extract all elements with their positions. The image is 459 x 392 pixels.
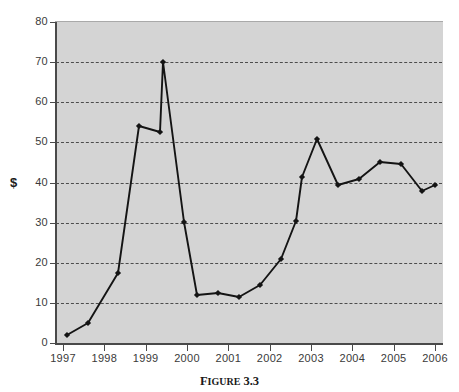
x-tick-label-2003: 2003 (291, 352, 331, 364)
gridline-20 (56, 263, 442, 264)
y-tick-label-20: 20 (22, 256, 48, 268)
caption-word-first-letter: F (200, 374, 208, 388)
y-tick-label-80: 80 (22, 15, 48, 27)
figure-3-3: · · · 01020304050607080 $ 19971998199920… (0, 0, 459, 392)
gridline-40 (56, 183, 442, 184)
x-tick-2000 (187, 345, 188, 351)
gridline-60 (56, 102, 442, 103)
caption-word-rest: IGURE (208, 376, 241, 387)
y-tick-0 (50, 343, 56, 344)
x-tick-1999 (146, 345, 147, 351)
x-tick-2006 (435, 345, 436, 351)
y-tick-label-60: 60 (22, 95, 48, 107)
x-tick-label-2004: 2004 (332, 352, 372, 364)
y-tick-30 (50, 223, 56, 224)
y-tick-50 (50, 142, 56, 143)
clipped-header-text: · · · (0, 0, 459, 8)
x-tick-label-1998: 1998 (84, 352, 124, 364)
x-tick-label-2005: 2005 (374, 352, 414, 364)
y-tick-label-70: 70 (22, 55, 48, 67)
y-tick-70 (50, 62, 56, 63)
gridline-50 (56, 142, 442, 143)
y-tick-label-0: 0 (22, 336, 48, 348)
y-tick-label-40: 40 (22, 176, 48, 188)
caption-number-value: 3.3 (243, 374, 259, 388)
y-tick-label-50: 50 (22, 135, 48, 147)
x-tick-2003 (311, 345, 312, 351)
y-tick-40 (50, 183, 56, 184)
figure-caption: FIGURE 3.3 (0, 374, 459, 389)
y-tick-20 (50, 263, 56, 264)
x-tick-label-2001: 2001 (208, 352, 248, 364)
x-tick-2001 (228, 345, 229, 351)
x-tick-2002 (270, 345, 271, 351)
y-axis-title: $ (10, 175, 17, 190)
x-tick-label-2006: 2006 (415, 352, 455, 364)
clipped-header-label: · · · (168, 0, 185, 2)
y-tick-label-10: 10 (22, 296, 48, 308)
x-tick-2004 (352, 345, 353, 351)
x-tick-1998 (104, 345, 105, 351)
gridline-30 (56, 223, 442, 224)
x-tick-2005 (394, 345, 395, 351)
y-tick-80 (50, 22, 56, 23)
y-tick-label-30: 30 (22, 216, 48, 228)
gridline-10 (56, 303, 442, 304)
x-tick-label-2002: 2002 (250, 352, 290, 364)
plot-area (55, 22, 443, 345)
x-tick-label-2000: 2000 (167, 352, 207, 364)
x-tick-1997 (63, 345, 64, 351)
x-tick-label-1999: 1999 (126, 352, 166, 364)
y-tick-60 (50, 102, 56, 103)
y-tick-10 (50, 303, 56, 304)
gridline-70 (56, 62, 442, 63)
x-tick-label-1997: 1997 (43, 352, 83, 364)
